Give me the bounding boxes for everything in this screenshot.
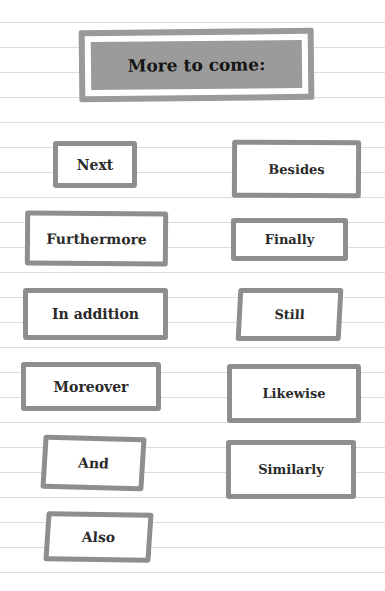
ruled-line	[0, 22, 385, 23]
ruled-line	[0, 347, 385, 348]
word-card-in-addition: In addition	[23, 288, 168, 340]
word-card-moreover: Moreover	[21, 362, 161, 411]
title-box: More to come:	[79, 28, 315, 102]
word-card-and: And	[40, 435, 146, 492]
title-label: More to come:	[91, 40, 302, 90]
ruled-line	[0, 572, 385, 573]
word-card-finally: Finally	[231, 218, 348, 261]
word-card-also: Also	[43, 511, 153, 562]
word-card-similarly: Similarly	[226, 440, 356, 499]
word-card-furthermore: Furthermore	[25, 211, 168, 267]
word-card-likewise: Likewise	[227, 364, 361, 423]
word-card-still: Still	[236, 288, 344, 341]
ruled-line	[0, 122, 385, 123]
word-card-besides: Besides	[232, 140, 361, 199]
ruled-line	[0, 272, 385, 273]
word-card-next: Next	[53, 141, 137, 188]
